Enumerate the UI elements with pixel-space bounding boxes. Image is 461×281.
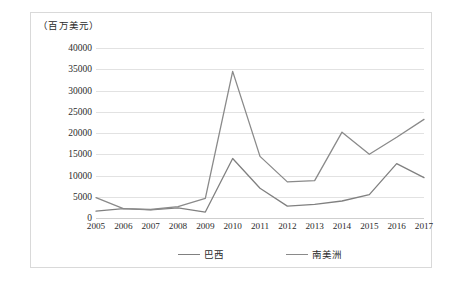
legend-label: 南美洲 [312, 247, 342, 261]
legend-item[interactable]: 南美洲 [286, 247, 342, 261]
chart-screenshot: （百万美元） 050001000015000200002500030000350… [0, 0, 461, 281]
legend-label: 巴西 [204, 247, 224, 261]
y-axis-tick-labels: 0500010000150002000025000300003500040000 [30, 48, 92, 218]
x-tick-label: 2010 [223, 221, 241, 231]
x-tick-label: 2017 [415, 221, 433, 231]
y-axis-unit-caption: （百万美元） [38, 18, 100, 32]
y-tick-label: 0 [34, 213, 92, 223]
x-tick-label: 2016 [387, 221, 405, 231]
y-tick-label: 5000 [34, 192, 92, 202]
x-tick-label: 2009 [196, 221, 214, 231]
x-axis-baseline [96, 218, 424, 219]
x-tick-label: 2005 [87, 221, 105, 231]
y-tick-label: 35000 [34, 64, 92, 74]
legend-line-swatch [178, 254, 200, 255]
x-tick-label: 2012 [278, 221, 296, 231]
x-tick-label: 2015 [360, 221, 378, 231]
y-tick-label: 30000 [34, 86, 92, 96]
series-line [96, 159, 424, 213]
legend-item[interactable]: 巴西 [178, 247, 224, 261]
x-tick-label: 2014 [333, 221, 351, 231]
x-tick-label: 2007 [141, 221, 159, 231]
y-tick-label: 40000 [34, 43, 92, 53]
chart-legend: 巴西南美洲 [96, 246, 424, 262]
x-axis-tick-labels: 2005200620072008200920102011201220132014… [96, 221, 424, 237]
x-tick-label: 2011 [251, 221, 269, 231]
x-tick-label: 2006 [114, 221, 132, 231]
y-tick-label: 20000 [34, 128, 92, 138]
chart-plot-area [96, 48, 424, 218]
y-tick-label: 15000 [34, 149, 92, 159]
x-tick-label: 2013 [305, 221, 323, 231]
y-tick-label: 10000 [34, 171, 92, 181]
x-tick-label: 2008 [169, 221, 187, 231]
legend-line-swatch [286, 254, 308, 255]
y-tick-label: 25000 [34, 107, 92, 117]
